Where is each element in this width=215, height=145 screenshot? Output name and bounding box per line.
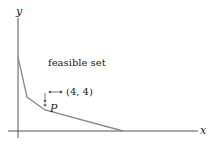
x-axis-label: x xyxy=(200,124,207,137)
feasible-set-label: feasible set xyxy=(48,57,106,68)
arrow-head-down-icon xyxy=(44,100,47,103)
arrow-head-left-icon xyxy=(48,91,51,94)
point-4-4-marker xyxy=(60,91,63,94)
feasible-set-diagram: y x feasible set (4, 4) P xyxy=(0,0,215,145)
point-p-marker xyxy=(44,104,47,107)
point-4-4-label: (4, 4) xyxy=(66,86,93,97)
y-axis-label: y xyxy=(15,5,23,18)
point-p-label: P xyxy=(49,102,58,115)
